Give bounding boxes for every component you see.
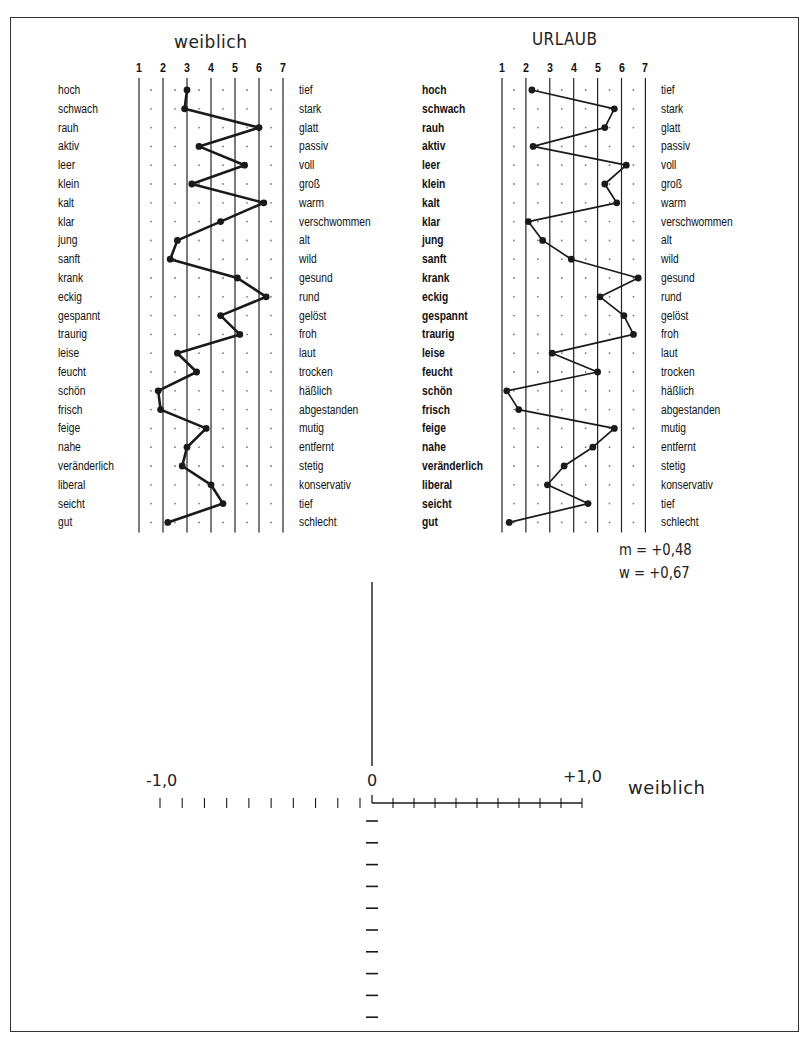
right-grid-dot: [513, 484, 515, 486]
left-grid-dot: [270, 484, 272, 486]
left-grid-dot: [222, 108, 224, 110]
right-grid-dot: [633, 202, 635, 204]
left-grid-dot: [150, 183, 152, 185]
right-grid-dot: [513, 446, 515, 448]
left-grid-dot: [270, 202, 272, 204]
left-grid-dot: [222, 484, 224, 486]
right-grid-dot: [513, 465, 515, 467]
left-grid-dot: [246, 334, 248, 336]
right-grid-dot: [513, 428, 515, 430]
right-data-point: [635, 275, 642, 282]
left-grid-dot: [150, 89, 152, 91]
right-grid-dot: [633, 428, 635, 430]
left-grid-dot: [198, 127, 200, 129]
right-grid-dot: [513, 183, 515, 185]
right-data-point: [611, 425, 618, 432]
right-grid-dot: [633, 89, 635, 91]
left-grid-dot: [222, 277, 224, 279]
left-grid-dot: [174, 428, 176, 430]
right-grid-dot: [609, 89, 611, 91]
right-grid-dot: [561, 371, 563, 373]
left-grid-dot: [270, 221, 272, 223]
left-grid-dot: [174, 522, 176, 524]
right-grid-dot: [561, 221, 563, 223]
left-grid-dot: [198, 390, 200, 392]
right-grid-dot: [537, 296, 539, 298]
left-grid-dot: [198, 465, 200, 467]
right-grid-dot: [609, 240, 611, 242]
right-grid-dot: [537, 277, 539, 279]
right-grid-dot: [633, 108, 635, 110]
right-grid-dot: [561, 428, 563, 430]
right-grid-dot: [513, 202, 515, 204]
right-grid-dot: [561, 258, 563, 260]
right-grid-dot: [537, 127, 539, 129]
right-grid-dot: [633, 409, 635, 411]
chart-graphics: [0, 0, 812, 1042]
left-grid-dot: [174, 89, 176, 91]
right-grid-dot: [513, 277, 515, 279]
right-grid-dot: [537, 503, 539, 505]
left-grid-dot: [246, 221, 248, 223]
right-grid-dot: [537, 352, 539, 354]
right-grid-dot: [513, 258, 515, 260]
right-data-point: [530, 143, 537, 150]
right-grid-dot: [585, 465, 587, 467]
right-grid-dot: [561, 277, 563, 279]
left-grid-dot: [270, 164, 272, 166]
right-grid-dot: [561, 202, 563, 204]
left-grid-dot: [246, 315, 248, 317]
left-grid-dot: [270, 315, 272, 317]
left-grid-dot: [150, 315, 152, 317]
left-grid-dot: [150, 334, 152, 336]
right-grid-dot: [585, 428, 587, 430]
left-grid-dot: [270, 108, 272, 110]
left-grid-dot: [270, 390, 272, 392]
right-grid-dot: [633, 503, 635, 505]
right-grid-dot: [537, 522, 539, 524]
right-grid-dot: [609, 446, 611, 448]
right-grid-dot: [633, 390, 635, 392]
left-grid-dot: [270, 277, 272, 279]
left-grid-dot: [270, 334, 272, 336]
right-grid-dot: [537, 221, 539, 223]
left-grid-dot: [246, 296, 248, 298]
left-data-point: [260, 199, 267, 206]
left-grid-dot: [246, 146, 248, 148]
right-grid-dot: [585, 258, 587, 260]
right-grid-dot: [633, 446, 635, 448]
right-grid-dot: [537, 428, 539, 430]
left-grid-dot: [270, 127, 272, 129]
left-grid-dot: [270, 428, 272, 430]
left-grid-dot: [150, 127, 152, 129]
left-grid-dot: [198, 89, 200, 91]
right-grid-dot: [561, 296, 563, 298]
left-grid-dot: [270, 465, 272, 467]
left-grid-dot: [222, 334, 224, 336]
right-grid-dot: [585, 315, 587, 317]
left-grid-dot: [222, 446, 224, 448]
left-data-point: [234, 275, 241, 282]
left-grid-dot: [246, 277, 248, 279]
left-grid-dot: [198, 202, 200, 204]
right-grid-dot: [609, 315, 611, 317]
left-data-point: [174, 237, 181, 244]
right-grid-dot: [561, 484, 563, 486]
right-grid-dot: [561, 334, 563, 336]
right-grid-dot: [513, 127, 515, 129]
left-grid-dot: [174, 108, 176, 110]
right-data-point: [613, 199, 620, 206]
right-grid-dot: [585, 371, 587, 373]
right-grid-dot: [633, 146, 635, 148]
right-grid-dot: [537, 446, 539, 448]
left-grid-dot: [150, 146, 152, 148]
right-grid-dot: [537, 315, 539, 317]
right-grid-dot: [585, 108, 587, 110]
right-grid-dot: [513, 409, 515, 411]
left-grid-dot: [174, 409, 176, 411]
right-grid-dot: [513, 334, 515, 336]
left-grid-dot: [246, 503, 248, 505]
right-grid-dot: [633, 371, 635, 373]
right-grid-dot: [537, 202, 539, 204]
left-profile-line: [158, 90, 266, 522]
